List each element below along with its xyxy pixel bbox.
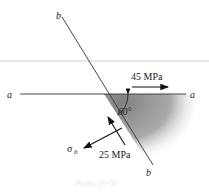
label-a-left: a — [7, 89, 12, 100]
label-sigma: σ — [67, 143, 73, 154]
sigma-b-arrow — [84, 128, 122, 148]
figure-caption: Probs. 10-55 — [76, 179, 117, 188]
label-b-top: b — [56, 10, 61, 21]
label-normal-stress: 45 MPa — [131, 71, 163, 82]
label-b-bottom: b — [146, 167, 151, 178]
stress-diagram: a a b b 60° 45 MPa 25 MPa σ b Probs. 10-… — [0, 0, 209, 192]
background-band — [0, 60, 209, 62]
label-sigma-sub: b — [74, 148, 78, 156]
label-shear-stress: 25 MPa — [99, 149, 131, 160]
line-b-b — [62, 17, 153, 165]
label-angle: 60° — [118, 107, 132, 117]
label-a-right: a — [190, 89, 195, 100]
